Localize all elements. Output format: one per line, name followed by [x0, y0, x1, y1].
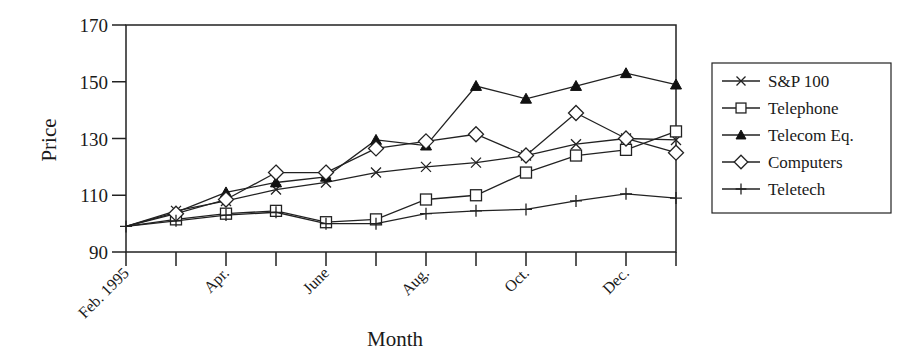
- x-tick-label: Oct.: [501, 264, 532, 295]
- square-marker-icon: [736, 103, 746, 113]
- line-chart: 90110130150170 Feb. 1995Apr.JuneAug.Oct.…: [0, 0, 923, 363]
- diamond-marker-icon: [419, 134, 434, 149]
- y-tick-label: 170: [80, 15, 109, 36]
- x-tick-label: Dec.: [599, 264, 632, 297]
- diamond-marker-icon: [469, 127, 484, 142]
- legend-label: Computers: [768, 153, 843, 172]
- plot-area: [126, 25, 676, 252]
- legend-label: Telecom Eq.: [768, 126, 854, 145]
- x-axis-title: Month: [367, 327, 424, 351]
- square-marker-icon: [521, 167, 532, 178]
- y-tick-label: 130: [80, 129, 109, 150]
- series-line: [126, 139, 676, 227]
- x-tick-label: June: [299, 264, 332, 297]
- plot-border: [126, 25, 676, 252]
- legend: S&P 100TelephoneTelecom Eq.ComputersTele…: [712, 63, 891, 213]
- x-tick-label: Feb. 1995: [75, 264, 132, 321]
- series-layer: [120, 68, 684, 233]
- plus-marker-icon: [570, 195, 582, 207]
- plus-marker-icon: [620, 188, 632, 200]
- plus-marker-icon: [670, 192, 682, 204]
- x-axis: Feb. 1995Apr.JuneAug.Oct.Dec.: [75, 252, 676, 321]
- legend-label: S&P 100: [768, 72, 829, 91]
- y-axis-title: Price: [37, 118, 61, 161]
- legend-label: Teletech: [768, 180, 826, 199]
- triangle-marker-icon: [621, 68, 632, 78]
- y-tick-label: 90: [89, 242, 108, 263]
- diamond-marker-icon: [669, 145, 684, 160]
- x-tick-label: Apr.: [200, 264, 233, 297]
- y-tick-label: 110: [80, 185, 108, 206]
- plus-marker-icon: [420, 208, 432, 220]
- plus-marker-icon: [520, 203, 532, 215]
- plus-marker-icon: [120, 220, 132, 232]
- series-s-p-100: [126, 134, 681, 227]
- legend-label: Telephone: [768, 99, 839, 118]
- triangle-marker-icon: [471, 81, 482, 91]
- plus-marker-icon: [470, 205, 482, 217]
- square-marker-icon: [671, 126, 682, 137]
- y-tick-label: 150: [80, 72, 109, 93]
- square-marker-icon: [421, 194, 432, 205]
- y-axis: 90110130150170: [80, 15, 127, 263]
- diamond-marker-icon: [269, 165, 284, 180]
- series-line: [126, 73, 676, 226]
- series-telecom-eq: [126, 68, 682, 227]
- square-marker-icon: [571, 150, 582, 161]
- square-marker-icon: [471, 190, 482, 201]
- x-tick-label: Aug.: [398, 264, 433, 299]
- series-line: [126, 131, 676, 226]
